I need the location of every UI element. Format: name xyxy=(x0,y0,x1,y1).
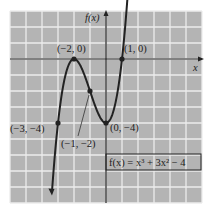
data-point xyxy=(87,88,92,93)
function-equation: f(x) = x³ + 3x² − 4 xyxy=(109,157,186,169)
function-graph: (−2, 0)(1, 0)(−3, −4)(−1, −2)(0, −4) f(x… xyxy=(0,0,212,216)
data-point xyxy=(103,120,108,125)
data-point xyxy=(71,56,76,61)
point-label: (−3, −4) xyxy=(10,123,45,135)
point-label: (1, 0) xyxy=(124,43,147,55)
data-point xyxy=(119,56,124,61)
point-label: (0, −4) xyxy=(110,122,139,134)
x-axis-label: x xyxy=(192,62,198,73)
data-point xyxy=(55,120,60,125)
point-label: (−2, 0) xyxy=(57,43,86,55)
point-label: (−1, −2) xyxy=(61,138,96,150)
y-axis-label: f(x) xyxy=(85,12,100,24)
